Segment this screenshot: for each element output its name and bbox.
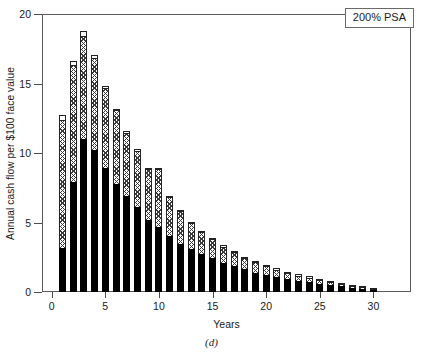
bar-year-3 [80,31,87,292]
bar-segment-principal [123,134,130,197]
figure-container: Annual cash flow per $100 face value 051… [0,0,423,358]
bar-segment-interest [284,279,291,292]
bar-segment-principal [209,240,216,258]
bar-segment-interest [220,263,227,292]
x-tick-label-20: 20 [260,301,272,312]
x-tick-label-25: 25 [314,301,326,312]
bar-segment-interest [295,281,302,292]
legend-label: 200% PSA [353,11,406,23]
bar-year-15 [209,238,216,292]
bar-segment-principal [70,66,77,182]
bar-year-26 [327,281,334,292]
bar-year-11 [166,196,173,292]
bar-year-1 [59,115,66,292]
bar-segment-principal [220,248,227,263]
bar-year-17 [231,251,238,292]
bar-segment-interest [198,254,205,292]
bar-segment-interest [177,244,184,292]
bar-year-12 [177,210,184,292]
bar-year-7 [123,131,130,292]
bar-segment-principal [252,263,259,272]
y-tick-label-0: 0 [25,287,31,298]
legend-box: 200% PSA [345,8,414,28]
bar-segment-interest [338,286,345,292]
bar-segment-principal [198,233,205,254]
x-axis-title: Years [42,318,411,330]
bar-segment-interest [252,273,259,292]
x-tick-10 [159,292,160,298]
bar-segment-interest [91,150,98,292]
bar-segment-principal [231,253,238,266]
bar-year-6 [113,109,120,292]
y-tick-0 [34,292,42,293]
x-tick-25 [320,292,321,298]
y-tick-5 [34,223,42,224]
bar-segment-interest [70,182,77,292]
bar-year-22 [284,272,291,292]
figure-caption: (d) [0,336,423,348]
x-tick-label-10: 10 [153,301,165,312]
bar-year-8 [134,149,141,292]
bar-year-10 [155,168,162,292]
bar-segment-interest [155,227,162,292]
bar-year-16 [220,245,227,292]
x-tick-30 [373,292,374,298]
bar-year-28 [349,285,356,292]
bar-year-9 [145,168,152,292]
bar-segment-principal [113,111,120,183]
y-tick-label-5: 5 [25,217,31,228]
x-tick-label-5: 5 [102,301,108,312]
bar-segment-interest [306,282,313,292]
y-tick-label-10: 10 [19,148,31,159]
bar-segment-interest [209,258,216,292]
bar-segment-interest [231,266,238,292]
bar-year-19 [252,261,259,292]
x-tick-0 [52,292,53,298]
bar-segment-principal [177,212,184,244]
x-tick-label-15: 15 [207,301,219,312]
bar-segment-interest [113,184,120,292]
bar-segment-interest [273,277,280,292]
bar-segment-interest [102,168,109,292]
bar-year-21 [273,268,280,292]
bar-segment-interest [263,275,270,292]
bar-year-2 [70,61,77,292]
x-tick-20 [266,292,267,298]
x-tick-15 [213,292,214,298]
bar-segment-interest [123,196,130,292]
bar-segment-interest [134,207,141,292]
x-tick-label-30: 30 [368,301,380,312]
bar-segment-interest [188,249,195,292]
y-axis-title-text: Annual cash flow per $100 face value [5,67,16,240]
bar-segment-principal [188,224,195,249]
y-tick-15 [34,84,42,85]
plot-area: 05101520 051015202530 [42,14,411,292]
y-tick-label-20: 20 [19,9,31,20]
bar-segment-principal [241,259,248,269]
bar-segment-principal [155,170,162,227]
bar-segment-interest [370,290,377,292]
bar-segment-interest [327,285,334,292]
bar-year-20 [263,265,270,292]
bar-segment-interest [349,288,356,292]
x-tick-5 [105,292,106,298]
bar-segment-principal [102,89,109,168]
bar-segment-interest [359,289,366,292]
y-axis-title: Annual cash flow per $100 face value [3,14,17,292]
bar-segment-interest [80,139,87,292]
bar-segment-interest [166,236,173,292]
bar-year-18 [241,257,248,292]
x-tick-label-0: 0 [49,301,55,312]
bar-year-27 [338,283,345,292]
bar-year-30 [370,288,377,292]
y-tick-label-15: 15 [19,78,31,89]
bar-segment-principal [134,152,141,208]
bar-year-13 [188,222,195,292]
bar-year-5 [102,86,109,292]
bar-year-29 [359,286,366,292]
bar-segment-principal [59,121,66,247]
bar-segment-interest [59,248,66,292]
bar-segment-interest [241,269,248,292]
bar-segment-principal [145,170,152,219]
bar-segment-principal [80,37,87,139]
